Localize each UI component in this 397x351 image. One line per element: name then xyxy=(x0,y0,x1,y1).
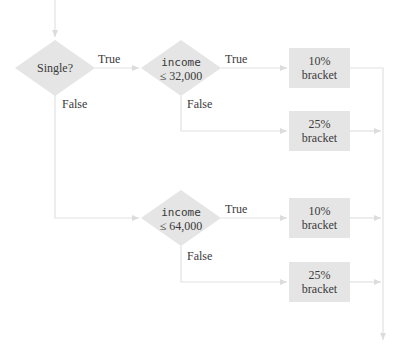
edge-label-d3-false: False xyxy=(187,249,212,263)
edge-label-single-false: False xyxy=(62,97,87,111)
edge-label-d2-true: True xyxy=(225,52,247,66)
outcome-box-1: 10% bracket xyxy=(289,48,350,88)
outcome-box-4: 25% bracket xyxy=(289,262,350,302)
tax-bracket-flowchart: Single? income ≤ 32,000 income ≤ 64,000 … xyxy=(0,0,397,351)
outcome-rate: 10% xyxy=(309,204,331,218)
outcome-label: bracket xyxy=(302,68,338,82)
decision-threshold: ≤ 64,000 xyxy=(160,219,203,233)
outcome-label: bracket xyxy=(302,218,338,232)
edge-label-d3-true: True xyxy=(225,202,247,216)
outcome-label: bracket xyxy=(302,282,338,296)
decision-income-64000: income ≤ 64,000 xyxy=(141,190,221,246)
edge-label-single-true: True xyxy=(98,52,120,66)
outcome-rate: 10% xyxy=(309,54,331,68)
decision-variable: income xyxy=(161,206,201,219)
decision-single: Single? xyxy=(15,40,95,96)
decision-variable: income xyxy=(161,56,201,69)
outcome-rate: 25% xyxy=(309,117,331,131)
outcome-box-3: 10% bracket xyxy=(289,198,350,238)
outcome-box-2: 25% bracket xyxy=(289,111,350,151)
edge-label-d2-false: False xyxy=(187,97,212,111)
decision-label: Single? xyxy=(37,61,73,75)
decision-income-32000: income ≤ 32,000 xyxy=(141,40,221,96)
outcome-label: bracket xyxy=(302,131,338,145)
decision-threshold: ≤ 32,000 xyxy=(160,69,203,83)
single-false-arrow xyxy=(55,95,139,218)
exit-arrow xyxy=(350,68,383,340)
outcome-rate: 25% xyxy=(309,268,331,282)
